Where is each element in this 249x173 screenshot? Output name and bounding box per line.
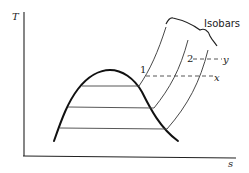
ts-diagram: T s Isobars 1 2 x y [0,0,249,173]
isobars-label: Isobars [204,18,240,29]
point-1-label: 1 [140,64,146,75]
y-axis-label: T [12,11,20,22]
point-y-label: y [222,54,229,65]
tie-line-middle [68,107,154,108]
x-axis [23,156,236,158]
point-x-label: x [214,72,220,83]
isobar-mid-pressure [154,40,188,108]
isobar-low-pressure [139,27,166,86]
saturation-dome [54,70,178,141]
point-2-label: 2 [187,53,193,64]
tie-line-bottom [60,128,167,129]
x-axis-label: s [228,158,233,169]
